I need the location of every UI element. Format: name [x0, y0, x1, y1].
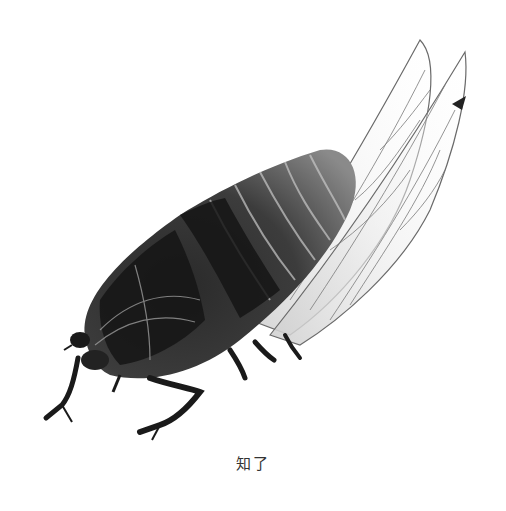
cicada-illustration: [0, 0, 506, 511]
figure-caption: 知了: [0, 452, 506, 473]
body: [70, 149, 356, 378]
